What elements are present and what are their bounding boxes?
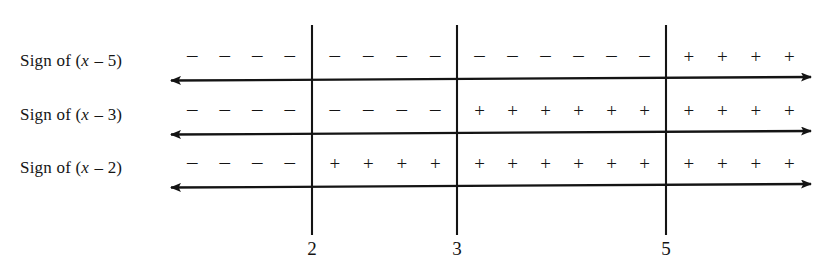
tick-label-3: 3 — [452, 239, 462, 258]
sign-glyph: + — [682, 47, 695, 66]
row-label-prefix: Sign of ( — [20, 105, 81, 124]
tick-label-2: 2 — [307, 239, 317, 258]
sign-glyph: – — [506, 45, 519, 66]
sign-glyph: + — [749, 154, 762, 173]
tick-label-5: 5 — [661, 239, 671, 258]
sign-segment-x-minus-5-interval-3: + + + + — [672, 45, 806, 67]
sign-glyph: – — [186, 99, 199, 120]
sign-glyph: – — [362, 45, 375, 66]
sign-segment-x-minus-3-interval-3: + + + + — [672, 99, 806, 121]
sign-glyph: – — [572, 45, 585, 66]
sign-glyph: + — [749, 47, 762, 66]
sign-segment-x-minus-2-interval-1: + + + + — [318, 152, 452, 174]
row-label-prefix: Sign of ( — [20, 158, 81, 177]
sign-glyph: + — [395, 154, 408, 173]
sign-glyph: – — [429, 99, 442, 120]
sign-glyph: + — [783, 154, 796, 173]
sign-glyph: + — [539, 101, 552, 120]
sign-glyph: – — [328, 45, 341, 66]
row-label-suffix: – 2) — [90, 158, 122, 177]
sign-glyph: + — [605, 101, 618, 120]
sign-segment-x-minus-3-interval-2: + + + + + + — [463, 99, 661, 121]
sign-glyph: + — [328, 154, 341, 173]
sign-glyph: – — [218, 99, 231, 120]
sign-glyph: – — [395, 99, 408, 120]
sign-glyph: + — [429, 154, 442, 173]
sign-glyph: – — [328, 99, 341, 120]
sign-glyph: – — [283, 152, 296, 173]
sign-chart-figure: Sign of (x – 5) – – – – – – – – – – – – … — [0, 0, 828, 279]
sign-glyph: + — [572, 154, 585, 173]
sign-glyph: + — [716, 101, 729, 120]
sign-glyph: + — [716, 47, 729, 66]
sign-glyph: – — [473, 45, 486, 66]
sign-glyph: + — [716, 154, 729, 173]
number-line-x-minus-3 — [171, 131, 811, 135]
sign-glyph: – — [638, 45, 651, 66]
sign-glyph: + — [682, 154, 695, 173]
sign-glyph: – — [218, 152, 231, 173]
sign-glyph: – — [251, 152, 264, 173]
row-label-x-minus-5: Sign of (x – 5) — [20, 52, 122, 69]
sign-glyph: + — [572, 101, 585, 120]
row-label-variable: x — [81, 158, 90, 177]
row-label-x-minus-2: Sign of (x – 2) — [20, 159, 122, 176]
chart-lines — [0, 0, 828, 279]
row-label-x-minus-3: Sign of (x – 3) — [20, 106, 122, 123]
sign-glyph: + — [473, 101, 486, 120]
sign-glyph: – — [362, 99, 375, 120]
sign-glyph: – — [395, 45, 408, 66]
sign-glyph: – — [429, 45, 442, 66]
sign-glyph: – — [283, 99, 296, 120]
row-label-suffix: – 3) — [90, 105, 122, 124]
row-label-variable: x — [81, 51, 90, 70]
sign-glyph: + — [473, 154, 486, 173]
sign-segment-x-minus-5-interval-0: – – – – — [176, 45, 306, 67]
sign-glyph: – — [251, 45, 264, 66]
row-label-prefix: Sign of ( — [20, 51, 81, 70]
sign-glyph: + — [539, 154, 552, 173]
row-label-suffix: – 5) — [90, 51, 122, 70]
sign-glyph: + — [506, 154, 519, 173]
sign-glyph: + — [749, 101, 762, 120]
sign-segment-x-minus-2-interval-0: – – – – — [176, 152, 306, 174]
sign-glyph: – — [251, 99, 264, 120]
sign-glyph: + — [506, 101, 519, 120]
sign-segment-x-minus-5-interval-2: – – – – – – — [463, 45, 661, 67]
number-line-x-minus-5 — [171, 77, 811, 81]
sign-glyph: – — [186, 45, 199, 66]
sign-glyph: – — [605, 45, 618, 66]
sign-glyph: + — [783, 101, 796, 120]
sign-segment-x-minus-2-interval-2: + + + + + + — [463, 152, 661, 174]
sign-segment-x-minus-3-interval-0: – – – – — [176, 99, 306, 121]
number-line-x-minus-2 — [171, 184, 811, 188]
sign-segment-x-minus-3-interval-1: – – – – — [318, 99, 452, 121]
sign-glyph: + — [783, 47, 796, 66]
sign-glyph: – — [186, 152, 199, 173]
sign-glyph: + — [605, 154, 618, 173]
sign-glyph: + — [638, 154, 651, 173]
sign-glyph: + — [682, 101, 695, 120]
sign-segment-x-minus-2-interval-3: + + + + — [672, 152, 806, 174]
sign-glyph: – — [539, 45, 552, 66]
sign-segment-x-minus-5-interval-1: – – – – — [318, 45, 452, 67]
sign-glyph: – — [283, 45, 296, 66]
sign-glyph: + — [362, 154, 375, 173]
row-label-variable: x — [81, 105, 90, 124]
sign-glyph: – — [218, 45, 231, 66]
sign-glyph: + — [638, 101, 651, 120]
